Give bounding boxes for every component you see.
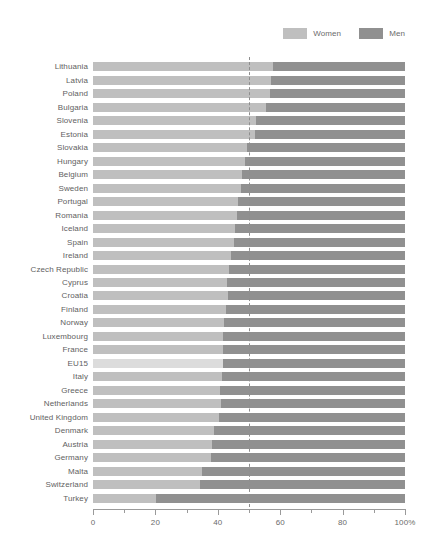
bar-row[interactable] xyxy=(93,170,405,179)
x-axis-tick-major xyxy=(280,509,281,515)
bar-row[interactable] xyxy=(93,224,405,233)
bar-row[interactable] xyxy=(93,103,405,112)
bar-segment-men xyxy=(221,399,405,408)
bar-row[interactable] xyxy=(93,251,405,260)
bar-segment-men xyxy=(271,76,405,85)
y-axis-label: Ireland xyxy=(0,251,88,260)
bar-row[interactable] xyxy=(93,467,405,476)
bar-segment-women xyxy=(93,103,266,112)
bar-segment-women xyxy=(93,184,241,193)
bar-segment-women xyxy=(93,197,238,206)
bar-segment-men xyxy=(220,386,405,395)
x-axis-tick-label: 80 xyxy=(338,518,347,527)
y-axis-label: Greece xyxy=(0,386,88,395)
y-axis-label: Lithuania xyxy=(0,62,88,71)
x-axis-tick-major xyxy=(405,509,406,515)
x-axis-tick-major xyxy=(218,509,219,515)
bar-segment-men xyxy=(202,467,405,476)
bar-segment-women xyxy=(93,265,229,274)
legend-label-men: Men xyxy=(389,30,405,38)
bar-segment-men xyxy=(223,359,405,368)
bar-row[interactable] xyxy=(93,278,405,287)
bar-segment-men xyxy=(255,130,405,139)
bar-row[interactable] xyxy=(93,386,405,395)
y-axis-label: Croatia xyxy=(0,291,88,300)
bar-row[interactable] xyxy=(93,211,405,220)
x-axis-tick-minor xyxy=(124,509,125,513)
x-axis-tick-minor xyxy=(374,509,375,513)
bar-segment-women xyxy=(93,494,156,503)
y-axis-label: Germany xyxy=(0,453,88,462)
y-axis-label: Denmark xyxy=(0,426,88,435)
bar-row[interactable] xyxy=(93,372,405,381)
bar-row[interactable] xyxy=(93,494,405,503)
bar-segment-women xyxy=(93,426,214,435)
bar-segment-men xyxy=(156,494,405,503)
bar-row[interactable] xyxy=(93,359,405,368)
bar-row[interactable] xyxy=(93,399,405,408)
bar-row[interactable] xyxy=(93,143,405,152)
bar-row[interactable] xyxy=(93,332,405,341)
bar-segment-women xyxy=(93,467,202,476)
bar-segment-women xyxy=(93,76,271,85)
y-axis-label: Cyprus xyxy=(0,278,88,287)
y-axis-label: EU15 xyxy=(0,359,88,368)
bar-segment-men xyxy=(223,332,405,341)
bar-row[interactable] xyxy=(93,197,405,206)
y-axis-label: Italy xyxy=(0,372,88,381)
bar-row[interactable] xyxy=(93,305,405,314)
bar-row[interactable] xyxy=(93,130,405,139)
bar-row[interactable] xyxy=(93,345,405,354)
bar-segment-men xyxy=(235,224,405,233)
x-axis-tick-minor xyxy=(249,509,250,513)
x-axis-tick-label: 60 xyxy=(276,518,285,527)
y-axis-label: Austria xyxy=(0,440,88,449)
bar-row[interactable] xyxy=(93,413,405,422)
y-axis-label: Finland xyxy=(0,305,88,314)
bar-segment-men xyxy=(256,116,405,125)
bar-segment-men xyxy=(245,157,405,166)
legend-swatch-icon-women xyxy=(283,28,307,39)
bar-segment-men xyxy=(242,170,405,179)
bar-row[interactable] xyxy=(93,116,405,125)
y-axis-label: Slovenia xyxy=(0,116,88,125)
bar-row[interactable] xyxy=(93,453,405,462)
stacked-bar-chart: Women Men LithuaniaLatviaPolandBulgariaS… xyxy=(0,0,429,552)
y-axis-label: Norway xyxy=(0,318,88,327)
bar-segment-men xyxy=(212,440,405,449)
x-axis-tick-label: 40 xyxy=(213,518,222,527)
bar-row[interactable] xyxy=(93,291,405,300)
bar-segment-men xyxy=(228,291,405,300)
bar-segment-men xyxy=(231,251,405,260)
y-axis-label: Portugal xyxy=(0,197,88,206)
chart-legend: Women Men xyxy=(283,28,405,39)
bar-row[interactable] xyxy=(93,76,405,85)
bar-row[interactable] xyxy=(93,89,405,98)
bar-row[interactable] xyxy=(93,157,405,166)
bar-row[interactable] xyxy=(93,318,405,327)
bar-row[interactable] xyxy=(93,184,405,193)
bar-segment-women xyxy=(93,372,222,381)
bar-row[interactable] xyxy=(93,426,405,435)
y-axis-label: Romania xyxy=(0,211,88,220)
x-axis-tick-label: 20 xyxy=(151,518,160,527)
bar-row[interactable] xyxy=(93,440,405,449)
y-axis-label: Turkey xyxy=(0,494,88,503)
bar-row[interactable] xyxy=(93,265,405,274)
y-axis-label: Luxembourg xyxy=(0,332,88,341)
bar-segment-men xyxy=(234,238,405,247)
x-axis-tick-major xyxy=(343,509,344,515)
x-axis-tick-major xyxy=(155,509,156,515)
y-axis-label: Bulgaria xyxy=(0,103,88,112)
legend-item-women: Women xyxy=(283,28,341,39)
bar-segment-women xyxy=(93,318,224,327)
bar-row[interactable] xyxy=(93,480,405,489)
bar-segment-men xyxy=(237,211,405,220)
bar-row[interactable] xyxy=(93,238,405,247)
y-axis-label: Netherlands xyxy=(0,399,88,408)
y-axis-label: Switzerland xyxy=(0,480,88,489)
bar-segment-women xyxy=(93,399,221,408)
bar-segment-women xyxy=(93,440,212,449)
legend-item-men: Men xyxy=(359,28,405,39)
bar-row[interactable] xyxy=(93,62,405,71)
